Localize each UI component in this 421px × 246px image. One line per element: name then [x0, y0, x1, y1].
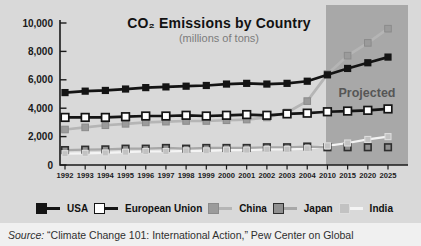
series-marker-usa — [364, 59, 371, 66]
chart-subtitle: (millions of tons) — [88, 32, 350, 44]
series-marker-china — [82, 124, 89, 131]
legend-label-japan: Japan — [304, 203, 333, 214]
series-marker-china — [365, 40, 372, 47]
x-axis-tick-label: 2004 — [299, 171, 317, 180]
series-marker-india — [365, 136, 371, 142]
series-marker-european-union — [162, 112, 170, 120]
series-marker-india — [102, 150, 108, 156]
series-marker-european-union — [283, 110, 291, 118]
x-axis-tick-label: 2015 — [339, 171, 357, 180]
y-axis-tick-label: 10,000 — [22, 18, 53, 29]
series-marker-european-union — [142, 112, 150, 120]
series-marker-india — [82, 150, 88, 156]
series-marker-usa — [142, 84, 149, 91]
legend-marker-usa — [36, 203, 60, 214]
legend-label-european-union: European Union — [125, 203, 202, 214]
series-marker-european-union — [263, 112, 271, 120]
series-marker-usa — [283, 80, 290, 87]
y-axis-tick-label: 6,000 — [28, 74, 53, 85]
x-axis-tick-label: 1992 — [57, 171, 74, 180]
y-axis-tick-label: 4,000 — [28, 103, 53, 114]
series-marker-european-union — [364, 107, 372, 115]
series-marker-india — [183, 148, 189, 154]
series-marker-usa — [223, 80, 230, 87]
series-marker-china — [344, 52, 351, 59]
legend-label-china: China — [239, 203, 267, 214]
x-axis-tick-label: 2025 — [380, 171, 398, 180]
x-axis-tick-label: 1997 — [157, 171, 174, 180]
series-marker-india — [123, 149, 129, 155]
x-axis-tick-label: 1994 — [97, 171, 115, 180]
legend-item-japan: Japan — [273, 203, 333, 214]
chart-title: CO₂ Emissions by Country — [88, 15, 350, 31]
legend-item-india: India — [339, 203, 393, 214]
series-marker-usa — [344, 65, 351, 72]
x-axis-tick-label: 2010 — [319, 171, 336, 180]
series-marker-china — [102, 122, 109, 129]
series-marker-usa — [61, 89, 68, 96]
legend-label-usa: USA — [67, 203, 88, 214]
legend-marker-european-union — [94, 203, 118, 214]
source-text: “Climate Change 101: International Actio… — [44, 229, 353, 241]
x-axis-tick-label: 2020 — [359, 171, 376, 180]
series-marker-india — [304, 146, 310, 152]
x-axis-tick-label: 1996 — [137, 171, 154, 180]
series-marker-china — [62, 126, 69, 133]
source-citation: Source: “Climate Change 101: Internation… — [8, 229, 354, 241]
legend-marker-china — [208, 203, 232, 214]
series-marker-usa — [304, 78, 311, 85]
legend-item-china: China — [208, 203, 267, 214]
series-marker-china — [304, 98, 311, 105]
series-marker-india — [385, 134, 391, 140]
legend-label-india: India — [370, 203, 393, 214]
x-axis-tick-label: 1998 — [178, 171, 195, 180]
series-marker-usa — [162, 83, 169, 90]
legend-item-european-union: European Union — [94, 203, 202, 214]
x-axis-tick-label: 2003 — [279, 171, 296, 180]
y-axis-tick-label: 2,000 — [28, 131, 53, 142]
series-marker-usa — [183, 83, 190, 90]
x-axis-tick-label: 1995 — [117, 171, 135, 180]
series-marker-india — [345, 140, 351, 146]
series-marker-european-union — [223, 112, 231, 120]
series-marker-european-union — [303, 109, 311, 117]
series-marker-usa — [82, 88, 89, 95]
series-marker-european-union — [182, 112, 190, 120]
y-axis-tick-label: 0 — [47, 160, 53, 171]
series-marker-india — [244, 147, 250, 153]
series-marker-usa — [102, 87, 109, 94]
series-marker-european-union — [102, 114, 110, 122]
x-axis-tick-label: 2001 — [238, 171, 256, 180]
series-marker-usa — [122, 85, 129, 92]
y-axis-tick-label: 8,000 — [28, 46, 53, 57]
series-marker-european-union — [61, 114, 69, 122]
series-marker-usa — [384, 53, 391, 60]
series-marker-usa — [203, 82, 210, 89]
series-marker-india — [62, 151, 68, 157]
series-marker-european-union — [81, 114, 89, 122]
series-marker-european-union — [344, 107, 352, 115]
series-marker-japan — [365, 144, 372, 151]
projected-region-label: Projected — [339, 86, 396, 100]
series-marker-usa — [243, 80, 250, 87]
series-marker-usa — [263, 80, 270, 87]
source-label: Source: — [8, 229, 44, 241]
series-marker-india — [264, 146, 270, 152]
legend-marker-japan — [273, 203, 297, 214]
series-marker-usa — [324, 71, 331, 78]
legend: USAEuropean UnionChinaJapanIndia — [0, 197, 421, 219]
series-marker-european-union — [243, 111, 251, 119]
series-marker-european-union — [384, 105, 392, 113]
series-marker-european-union — [203, 112, 211, 120]
series-marker-japan — [385, 144, 392, 151]
series-marker-china — [385, 25, 392, 32]
series-marker-india — [203, 148, 209, 154]
legend-item-usa: USA — [36, 203, 88, 214]
series-marker-india — [143, 149, 149, 155]
x-axis-tick-label: 2002 — [258, 171, 275, 180]
chart-panel: Projected02,0004,0006,0008,00010,0001992… — [0, 0, 421, 223]
series-marker-european-union — [122, 113, 130, 121]
legend-marker-india — [339, 203, 363, 214]
series-marker-india — [324, 143, 330, 149]
x-axis-tick-label: 1993 — [77, 171, 94, 180]
